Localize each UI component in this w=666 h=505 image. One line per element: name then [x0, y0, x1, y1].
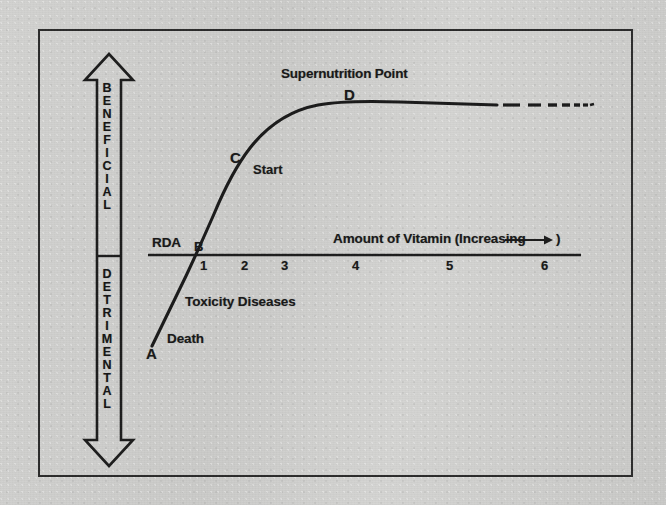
supernutrition-point-label: Supernutrition Point	[281, 66, 408, 81]
point-b-label: B	[194, 239, 203, 254]
x-tick-6: 6	[541, 258, 548, 273]
response-curve	[152, 101, 497, 346]
beneficial-letter: L	[103, 199, 111, 212]
point-a-label: A	[146, 345, 157, 362]
start-label: Start	[253, 162, 283, 177]
point-d-label: D	[344, 86, 355, 103]
x-axis-title: Amount of Vitamin (Increasing	[333, 231, 526, 246]
axis-label-beneficial: B E N E F I C I A L	[93, 82, 121, 212]
x-tick-4: 4	[352, 258, 359, 273]
death-label: Death	[167, 331, 204, 346]
x-tick-3: 3	[281, 258, 288, 273]
x-tick-5: 5	[446, 258, 453, 273]
rda-label: RDA	[152, 235, 181, 250]
toxicity-diseases-label: Toxicity Diseases	[185, 294, 296, 309]
point-c-label: C	[230, 149, 241, 166]
x-axis-title-close-paren: )	[556, 231, 560, 246]
detrimental-letter: L	[103, 398, 111, 411]
x-tick-1: 1	[200, 258, 207, 273]
axis-label-detrimental: D E T R I M E N T A L	[93, 268, 121, 411]
figure-canvas: B E N E F I C I A L D E T R I M E N T A …	[0, 0, 666, 505]
response-curve-extrapolation	[503, 104, 594, 105]
x-tick-2: 2	[241, 258, 248, 273]
